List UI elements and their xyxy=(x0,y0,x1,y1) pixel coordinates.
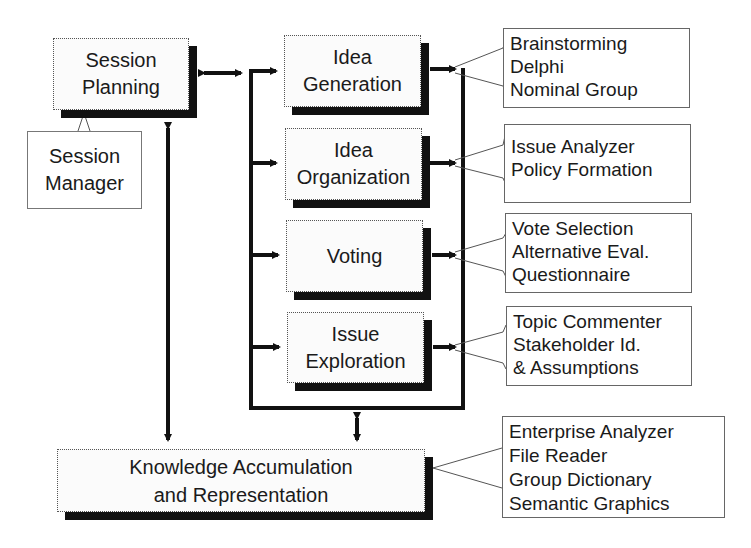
tool-item: Enterprise Analyzer xyxy=(509,420,718,444)
session-planning-label-1: Session xyxy=(85,47,156,74)
idea-generation-box: Idea Generation xyxy=(284,35,421,107)
tool-item: Policy Formation xyxy=(511,158,684,181)
tool-item: Issue Analyzer xyxy=(511,135,684,158)
issue-exploration-label-1: Issue xyxy=(332,321,380,348)
idea-generation-tools: Brainstorming Delphi Nominal Group xyxy=(503,28,690,108)
tool-item: Stakeholder Id. xyxy=(513,333,685,356)
voting-box: Voting xyxy=(286,220,423,292)
issue-exploration-box: Issue Exploration xyxy=(287,312,424,383)
tool-item: Questionnaire xyxy=(512,263,685,286)
tool-item: Semantic Graphics xyxy=(509,492,718,516)
tool-item: Group Dictionary xyxy=(509,468,718,492)
voting-tools: Vote Selection Alternative Eval. Questio… xyxy=(505,213,692,293)
tool-item: Brainstorming xyxy=(510,32,683,55)
knowledge-label-1: Knowledge Accumulation xyxy=(129,453,352,481)
session-manager-callout: Session Manager xyxy=(27,131,142,209)
voting-label: Voting xyxy=(327,243,383,270)
issue-exploration-label-2: Exploration xyxy=(305,348,405,375)
session-planning-box: Session Planning xyxy=(53,38,189,110)
knowledge-tools: Enterprise Analyzer File Reader Group Di… xyxy=(502,416,725,518)
knowledge-label-2: and Representation xyxy=(154,481,329,509)
tool-item: File Reader xyxy=(509,444,718,468)
idea-organization-box: Idea Organization xyxy=(285,128,422,200)
tool-item: Alternative Eval. xyxy=(512,240,685,263)
session-planning-label-2: Planning xyxy=(82,74,160,101)
tool-item: Nominal Group xyxy=(510,78,683,101)
idea-organization-tools: Issue Analyzer Policy Formation xyxy=(504,124,691,203)
idea-generation-label-2: Generation xyxy=(303,71,402,98)
idea-generation-label-1: Idea xyxy=(333,44,372,71)
idea-organization-label-1: Idea xyxy=(334,137,373,164)
idea-organization-label-2: Organization xyxy=(297,164,410,191)
tool-item: Topic Commenter xyxy=(513,310,685,333)
tool-item: Vote Selection xyxy=(512,217,685,240)
issue-exploration-tools: Topic Commenter Stakeholder Id. & Assump… xyxy=(506,306,692,386)
knowledge-accumulation-box: Knowledge Accumulation and Representatio… xyxy=(57,449,425,512)
session-manager-label-1: Session xyxy=(28,143,141,170)
tool-item: Delphi xyxy=(510,55,683,78)
tool-item: & Assumptions xyxy=(513,356,685,379)
session-manager-label-2: Manager xyxy=(28,170,141,197)
diagram-canvas: Session Planning Session Manager Idea Ge… xyxy=(0,0,751,548)
